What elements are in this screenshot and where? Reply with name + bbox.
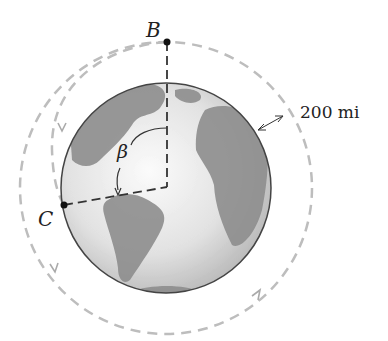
point-b-marker bbox=[164, 39, 171, 46]
altitude-arrowhead-inner bbox=[258, 124, 266, 130]
label-altitude: 200 mi bbox=[300, 102, 359, 122]
point-c-marker bbox=[61, 202, 68, 209]
direction-arrow-left bbox=[58, 123, 66, 131]
earth-globe bbox=[61, 83, 271, 300]
direction-arrow-bottom-left bbox=[50, 263, 58, 272]
label-c: C bbox=[38, 207, 53, 231]
diagram-svg bbox=[0, 0, 388, 341]
altitude-dimension bbox=[258, 116, 283, 130]
altitude-arrowhead-outer bbox=[275, 116, 283, 122]
label-b: B bbox=[146, 18, 161, 42]
direction-arrow-bottom-right bbox=[252, 290, 260, 300]
label-beta: β bbox=[117, 140, 128, 162]
orbit-diagram: B C β 200 mi bbox=[0, 0, 388, 341]
